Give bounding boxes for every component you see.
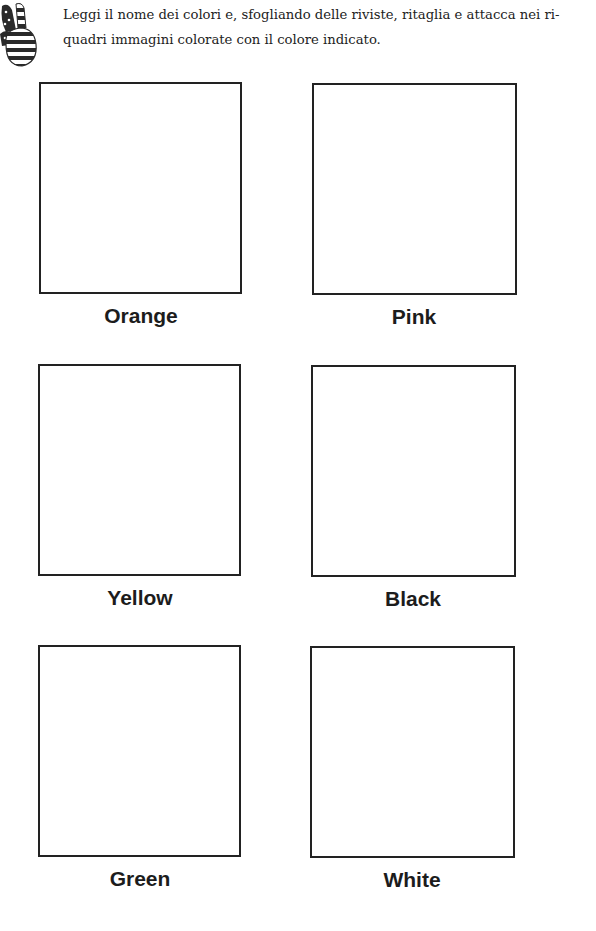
color-label-orange: Orange xyxy=(39,304,243,328)
color-label-pink: Pink xyxy=(312,305,516,329)
striped-hand-icon xyxy=(0,0,40,72)
color-label-green: Green xyxy=(38,867,242,891)
paste-box-white xyxy=(310,646,515,858)
color-label-black: Black xyxy=(311,587,515,611)
instruction-line-2: quadri immagini colorate con il colore i… xyxy=(63,27,588,52)
paste-box-pink xyxy=(312,83,517,295)
color-label-yellow: Yellow xyxy=(38,586,242,610)
instruction-line-1: Leggi il nome dei colori e, sfogliando d… xyxy=(63,2,588,27)
paste-box-green xyxy=(38,645,241,857)
paste-box-black xyxy=(311,365,516,577)
color-label-white: White xyxy=(310,868,514,892)
instructions-text: Leggi il nome dei colori e, sfogliando d… xyxy=(63,2,588,52)
paste-box-yellow xyxy=(38,364,241,576)
paste-box-orange xyxy=(39,82,242,294)
